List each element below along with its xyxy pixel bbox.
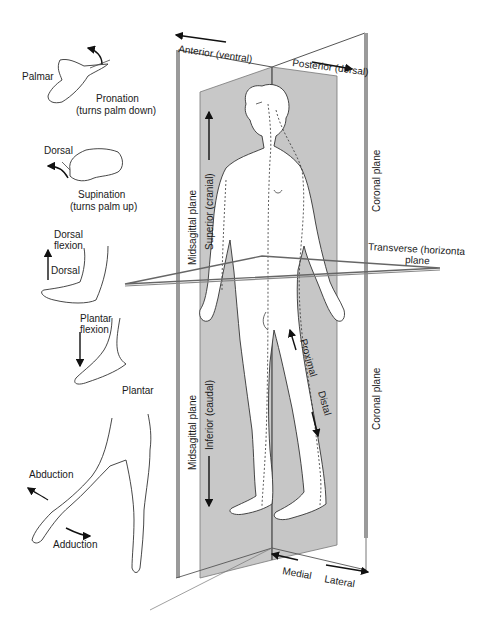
palmar-label: Palmar	[22, 71, 54, 82]
pronation-note-label: (turns palm down)	[76, 105, 156, 116]
pronation-arrow	[88, 48, 102, 64]
plantar-flexion-label-line1: Plantar	[80, 313, 112, 324]
lateral-arrow	[326, 565, 368, 572]
transverse-plane-label-line2: plane	[405, 254, 430, 266]
supination-label: Supination	[78, 189, 125, 200]
pronation-label: Pronation	[96, 93, 139, 104]
inferior-label: Inferior (caudal)	[204, 380, 215, 450]
adduction-label: Adduction	[53, 539, 97, 550]
coronal-plane-label-lower: Coronal plane	[371, 367, 382, 430]
plantar-label: Plantar	[122, 385, 154, 396]
dorsal-flexion-label-line2: flexion	[54, 240, 83, 251]
abduction-arrow	[28, 488, 48, 500]
coronal-plane-label-upper: Coronal plane	[371, 149, 382, 212]
plantar-flexion-label-line2: flexion	[80, 324, 109, 335]
anatomy-diagram: Anterior (ventral) Posterior (dorsal) Mi…	[0, 0, 484, 617]
midsagittal-plane-label-lower: Midsagittal plane	[187, 395, 198, 470]
supination-note-label: (turns palm up)	[70, 201, 137, 212]
dorsal-flexion-label-line1: Dorsal	[54, 229, 83, 240]
medial-label: Medial	[282, 565, 313, 581]
abduction-label: Abduction	[29, 469, 73, 480]
supination-arrow	[48, 166, 68, 178]
anterior-label: Anterior (ventral)	[178, 43, 253, 64]
midsagittal-plane-label-upper: Midsagittal plane	[187, 190, 198, 265]
anterior-arrow	[176, 35, 226, 42]
dorsal-hand-label: Dorsal	[44, 145, 73, 156]
superior-label: Superior (cranial)	[204, 173, 215, 250]
dorsal-foot-label: Dorsal	[51, 265, 80, 276]
adduction-arrow	[66, 528, 90, 536]
lateral-label: Lateral	[324, 573, 356, 589]
